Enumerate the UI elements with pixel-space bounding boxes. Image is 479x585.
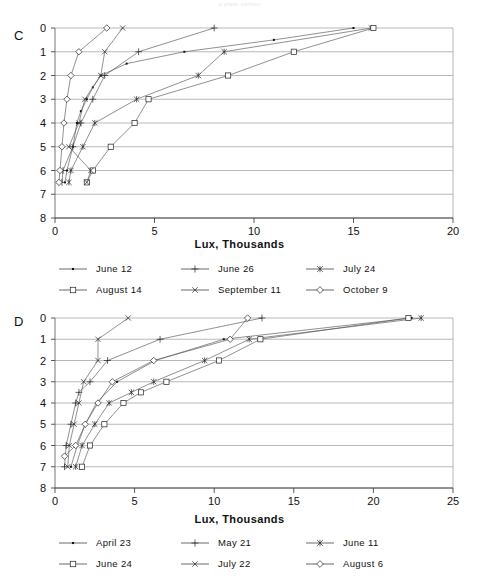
marker-diamond (82, 421, 88, 427)
legend-marker-star (180, 558, 210, 570)
marker-dot (183, 51, 185, 53)
y-tick-label: 8 (40, 482, 46, 494)
series-line (71, 318, 412, 467)
legend-label: August 14 (96, 284, 142, 295)
x-tick-label: 20 (447, 225, 459, 237)
legend-label: July 24 (343, 263, 376, 274)
marker-diamond (56, 179, 62, 185)
marker-square (79, 464, 84, 469)
marker-dot (72, 267, 74, 269)
legend-swatch (305, 263, 335, 275)
legend-label: April 23 (96, 537, 131, 548)
marker-square (102, 422, 107, 427)
legend-swatch (58, 537, 88, 549)
chart-panel-d: D 0123456780510152025 Lux, Thousands Apr… (0, 300, 479, 585)
legend-row: August 14September 11October 9 (0, 279, 479, 300)
y-tick-label: 5 (40, 141, 46, 153)
legend-row: June 12June 26July 24 (0, 258, 479, 279)
plot-area-d: 0123456780510152025 (0, 300, 479, 510)
legend-swatch (305, 537, 335, 549)
series-line (65, 318, 248, 456)
y-tick-label: 8 (40, 212, 46, 224)
legend-item-june-12[interactable]: June 12 (58, 263, 180, 275)
series-august-14 (84, 25, 376, 185)
y-tick-label: 7 (40, 461, 46, 473)
legend-item-june-24[interactable]: June 24 (58, 558, 180, 570)
legend-label: May 21 (218, 537, 251, 548)
marker-diamond (317, 560, 324, 567)
marker-square (146, 97, 151, 102)
legend-item-may-21[interactable]: May 21 (180, 537, 305, 549)
marker-square (258, 337, 263, 342)
marker-diamond (68, 72, 74, 78)
y-tick-label: 7 (40, 188, 46, 200)
x-axis-title-c: Lux, Thousands (0, 238, 479, 250)
series-july-24 (66, 25, 374, 186)
marker-square (406, 315, 411, 320)
legend-swatch (305, 284, 335, 296)
legend-swatch (180, 284, 210, 296)
marker-asterisk (66, 179, 71, 185)
marker-square (87, 443, 92, 448)
legend-item-october-9[interactable]: October 9 (305, 284, 425, 296)
plot-area-c: 01234567805101520 (0, 10, 479, 260)
series-line (65, 28, 354, 182)
x-tick-label: 10 (208, 495, 220, 507)
legend-marker-plus (180, 263, 210, 275)
legend-label: June 26 (218, 263, 254, 274)
x-axis-title-d: Lux, Thousands (0, 513, 479, 525)
legend-item-april-23[interactable]: April 23 (58, 537, 180, 549)
marker-diamond (64, 96, 70, 102)
y-tick-label: 5 (40, 418, 46, 430)
legend-item-august-14[interactable]: August 14 (58, 284, 180, 296)
y-tick-label: 1 (40, 333, 46, 345)
legend-item-july-24[interactable]: July 24 (305, 263, 425, 275)
legend-item-september-11[interactable]: September 11 (180, 284, 305, 296)
marker-diamond (61, 120, 67, 126)
x-tick-label: 25 (447, 495, 459, 507)
marker-plus (70, 143, 77, 150)
figure-caption-top: a plate carbon (0, 0, 479, 9)
x-tick-label: 20 (367, 495, 379, 507)
marker-plus (101, 72, 108, 79)
legend-swatch (180, 263, 210, 275)
marker-diamond (95, 400, 101, 406)
x-tick-label: 5 (151, 225, 157, 237)
marker-plus (191, 539, 198, 546)
chart-panel-c: C 01234567805101520 Lux, Thousands June … (0, 10, 479, 300)
marker-square (70, 287, 75, 292)
legend-marker-square (58, 558, 88, 570)
x-tick-label: 0 (52, 225, 58, 237)
y-tick-label: 4 (40, 397, 46, 409)
legend-marker-diamond (305, 284, 335, 296)
series-june-11 (73, 315, 424, 470)
legend-item-august-6[interactable]: August 6 (305, 558, 425, 570)
legend-d: April 23May 21June 11June 24July 22Augus… (0, 532, 479, 574)
marker-asterisk (129, 389, 134, 395)
legend-item-june-26[interactable]: June 26 (180, 263, 305, 275)
marker-square (164, 379, 169, 384)
legend-marker-plus (180, 537, 210, 549)
legend-marker-asterisk (305, 263, 335, 275)
marker-plus (191, 265, 198, 272)
legend-label: October 9 (343, 284, 388, 295)
legend-swatch (180, 537, 210, 549)
legend-marker-dot (58, 537, 88, 549)
marker-square (291, 49, 296, 54)
legend-item-july-22[interactable]: July 22 (180, 558, 305, 570)
x-tick-label: 5 (132, 495, 138, 507)
marker-dot (86, 98, 88, 100)
y-tick-label: 4 (40, 117, 46, 129)
marker-dot (116, 381, 118, 383)
legend-item-june-11[interactable]: June 11 (305, 537, 425, 549)
legend-label: June 12 (96, 263, 132, 274)
marker-plus (157, 336, 164, 343)
legend-swatch (180, 558, 210, 570)
legend-marker-star (180, 284, 210, 296)
marker-plus (135, 48, 142, 55)
series-line (69, 28, 371, 182)
legend-marker-asterisk (305, 537, 335, 549)
y-tick-label: 3 (40, 93, 46, 105)
y-tick-label: 6 (40, 165, 46, 177)
marker-plus (211, 25, 218, 32)
